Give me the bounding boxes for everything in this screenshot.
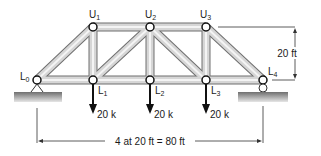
label-L4: L4 (268, 66, 278, 78)
arrow-down-icon (89, 84, 97, 114)
truss-members (37, 27, 263, 80)
pin-support-icon (14, 84, 62, 102)
arrow-down-icon (146, 84, 154, 114)
load-label-L2: 20 k (154, 109, 174, 120)
height-dimension-label: 20 ft (277, 48, 297, 59)
load-label-L1: 20 k (97, 109, 117, 120)
span-dimension-label: 4 at 20 ft = 80 ft (115, 136, 185, 147)
load-label-L3: 20 k (210, 109, 230, 120)
label-L2: L2 (155, 85, 165, 97)
joint-L3 (202, 76, 210, 84)
joint-U2 (146, 23, 154, 31)
roller-support-icon (238, 84, 288, 102)
joint-U3 (202, 23, 210, 31)
label-U1: U1 (89, 9, 100, 21)
joint-U1 (89, 23, 97, 31)
joint-L2 (146, 76, 154, 84)
label-L3: L3 (211, 85, 221, 97)
label-L0: L0 (20, 71, 30, 83)
label-U2: U2 (145, 9, 156, 21)
label-U3: U3 (200, 9, 211, 21)
arrow-down-icon (202, 84, 210, 114)
joint-L0 (33, 76, 41, 84)
truss-diagram: L0 L1 L2 L3 L4 U1 U2 U3 20 k 20 k 20 k 2… (0, 0, 321, 156)
label-L1: L1 (98, 85, 108, 97)
joint-L1 (89, 76, 97, 84)
joint-L4 (259, 76, 267, 84)
load-labels: 20 k 20 k 20 k (97, 109, 230, 120)
